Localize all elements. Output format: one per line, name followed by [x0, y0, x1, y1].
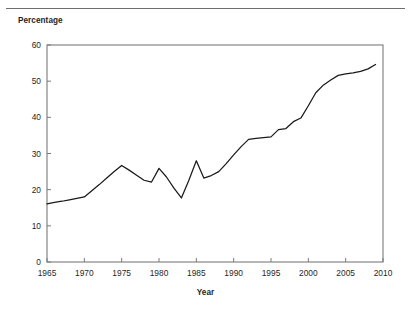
y-tick-label: 60	[17, 40, 41, 50]
y-tick-label: 10	[17, 221, 41, 231]
x-tick-label: 2005	[329, 268, 363, 278]
plot-area: 0102030405060 19651970197519801985199019…	[0, 0, 411, 309]
data-series-group	[47, 65, 376, 204]
plot-frame	[47, 45, 383, 262]
y-tick-label: 20	[17, 185, 41, 195]
x-tick-label: 1975	[105, 268, 139, 278]
y-tick-label: 30	[17, 149, 41, 159]
x-axis-ticks	[47, 258, 383, 262]
x-axis-title: Year	[0, 288, 411, 297]
series-line-percentage	[47, 65, 376, 204]
line-chart-svg	[0, 0, 411, 309]
x-tick-label: 1985	[179, 268, 213, 278]
y-tick-label: 40	[17, 112, 41, 122]
x-tick-label: 1995	[254, 268, 288, 278]
x-tick-label: 1990	[217, 268, 251, 278]
x-tick-label: 1980	[142, 268, 176, 278]
y-axis-ticks	[47, 45, 51, 262]
y-tick-label: 50	[17, 76, 41, 86]
x-tick-label: 1970	[67, 268, 101, 278]
x-tick-label: 2010	[366, 268, 400, 278]
y-tick-label: 0	[17, 257, 41, 267]
figure-container: Percentage 0102030405060 196519701975198…	[0, 0, 411, 309]
x-tick-label: 1965	[30, 268, 64, 278]
x-tick-label: 2000	[291, 268, 325, 278]
